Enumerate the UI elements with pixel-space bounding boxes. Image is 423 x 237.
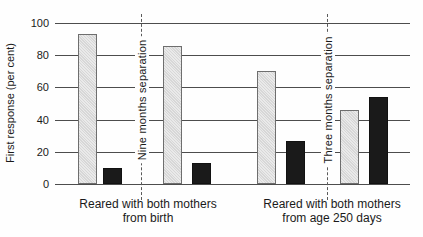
x-group-label-1: Reared with both mothersfrom birth [79, 197, 216, 225]
dark-bar-pair1 [103, 168, 122, 184]
light-bar-pair4 [340, 110, 359, 184]
separation-divider-label-2: Three months separation [321, 34, 335, 167]
light-bar-pair3 [257, 71, 276, 184]
gridline-60 [55, 87, 410, 88]
y-tick-label-100: 100 [13, 16, 49, 30]
dark-bar-pair4 [369, 97, 388, 184]
gridline-80 [55, 55, 410, 56]
y-tick-label-0: 0 [13, 177, 49, 191]
x-group-label-1-line1: Reared with both mothers [79, 197, 216, 211]
y-tick-label-60: 60 [13, 80, 49, 94]
bar-chart: First response (per cent) 020406080100Ni… [0, 0, 423, 237]
light-bar-pair1 [78, 34, 97, 184]
x-group-label-2-line2: from age 250 days [263, 211, 400, 225]
gridline-0 [55, 184, 410, 185]
x-group-label-1-line2: from birth [79, 211, 216, 225]
x-group-label-2: Reared with both mothersfrom age 250 day… [263, 197, 400, 225]
gridline-100 [55, 23, 410, 24]
plot-area [55, 23, 410, 184]
y-tick-label-80: 80 [13, 48, 49, 62]
y-tick-label-20: 20 [13, 145, 49, 159]
x-group-label-2-line1: Reared with both mothers [263, 197, 400, 211]
separation-divider-label-1: Nine months separation [135, 37, 149, 164]
dark-bar-pair2 [192, 163, 211, 184]
light-bar-pair2 [163, 46, 182, 184]
y-tick-label-40: 40 [13, 113, 49, 127]
dark-bar-pair3 [286, 141, 305, 184]
